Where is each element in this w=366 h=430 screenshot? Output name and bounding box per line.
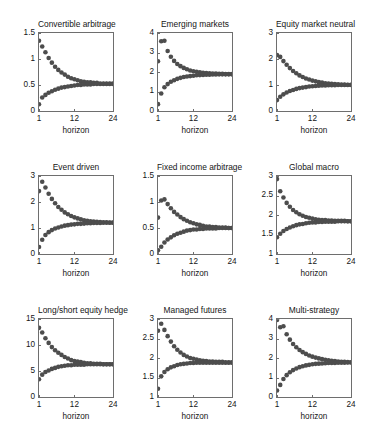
chart-panel: Event driven012311224horizon (4, 162, 124, 278)
y-axis-tick-mark (276, 235, 279, 236)
x-axis-tick-mark (351, 395, 352, 398)
data-point (165, 334, 170, 339)
data-point (281, 195, 286, 200)
scatter-series (39, 326, 113, 367)
data-point (39, 39, 41, 44)
scatter-series (39, 362, 113, 382)
x-axis-label: horizon (276, 412, 352, 421)
panel-title: Long/short equity hedge (38, 305, 114, 315)
x-axis-tick-label: 1 (27, 115, 51, 123)
data-point (158, 102, 160, 107)
y-axis-tick-mark (157, 339, 160, 340)
plot-area (38, 32, 114, 112)
x-axis-tick-label: 1 (146, 115, 170, 123)
data-point (169, 54, 174, 59)
data-point (165, 49, 170, 54)
x-axis-tick-mark (74, 395, 75, 398)
y-axis-tick-label: 3 (242, 334, 273, 342)
x-axis-label: horizon (276, 126, 352, 135)
plot-area (157, 175, 233, 255)
y-axis-tick-label: 1 (123, 198, 154, 206)
y-axis-tick-label: 3 (123, 48, 154, 56)
data-point (50, 197, 55, 202)
chart-panel: Long/short equity hedge05101511224horizo… (4, 305, 124, 421)
x-axis-tick-label: 12 (181, 401, 205, 409)
data-point (40, 179, 45, 184)
y-axis-tick-label: 0.5 (123, 224, 154, 232)
y-axis-tick-label: 1 (4, 224, 35, 232)
x-axis-tick-mark (158, 109, 159, 112)
data-point (46, 341, 51, 346)
scatter-series-layer (277, 176, 351, 254)
plot-area (276, 175, 352, 255)
data-point (169, 339, 174, 344)
data-point (158, 215, 160, 220)
y-axis-tick-label: 2 (123, 354, 154, 362)
x-axis-tick-label: 1 (265, 115, 289, 123)
y-axis-tick-mark (38, 228, 41, 229)
y-axis-tick-label: 1 (242, 373, 273, 381)
data-point (281, 377, 286, 382)
scatter-series-layer (39, 176, 113, 254)
data-point (278, 189, 283, 194)
data-point (165, 202, 170, 207)
y-axis-tick-label: 0 (242, 393, 273, 401)
scatter-series (277, 83, 351, 103)
x-axis-tick-mark (351, 252, 352, 255)
x-axis-tick-mark (351, 109, 352, 112)
y-axis-tick-mark (38, 33, 41, 34)
data-point (172, 344, 177, 349)
chart-panel: Managed futures11.522.5311224horizon (123, 305, 243, 421)
y-axis-tick-mark (38, 345, 41, 346)
y-axis-tick-label: 0.5 (4, 81, 35, 89)
scatter-series (158, 197, 232, 230)
data-point (43, 336, 48, 341)
y-axis-tick-label: 0 (4, 250, 35, 258)
data-point (40, 44, 45, 49)
scatter-series (277, 319, 351, 365)
x-axis-tick-mark (158, 252, 159, 255)
panel-title: Emerging markets (157, 19, 233, 29)
data-point (169, 206, 174, 211)
data-point (281, 324, 286, 329)
y-axis-tick-mark (157, 33, 160, 34)
y-axis-tick-label: 3 (242, 29, 273, 37)
y-axis-tick-mark (276, 339, 279, 340)
x-axis-tick-mark (232, 395, 233, 398)
x-axis-tick-mark (312, 395, 313, 398)
y-axis-tick-mark (157, 358, 160, 359)
x-axis-tick-label: 12 (300, 258, 324, 266)
x-axis-tick-mark (193, 109, 194, 112)
y-axis-tick-label: 4 (123, 29, 154, 37)
data-point (162, 39, 167, 44)
y-axis-tick-label: 1 (242, 81, 273, 89)
y-axis-tick-mark (157, 319, 160, 320)
figure-panel-grid: Convertible arbitrage00.511.511224horizo… (0, 0, 366, 430)
data-point (288, 337, 293, 342)
y-axis-tick-label: 1.5 (4, 29, 35, 37)
y-axis-tick-label: 3 (4, 172, 35, 180)
scatter-series-layer (158, 33, 232, 111)
x-axis-tick-label: 24 (220, 258, 244, 266)
data-point (40, 330, 45, 335)
x-axis-tick-label: 24 (220, 401, 244, 409)
y-axis-tick-mark (38, 202, 41, 203)
scatter-series (158, 72, 232, 106)
scatter-series (277, 53, 351, 87)
y-axis-tick-label: 0 (242, 107, 273, 115)
y-axis-tick-mark (157, 228, 160, 229)
chart-panel: Convertible arbitrage00.511.511224horizo… (4, 19, 124, 135)
x-axis-tick-mark (39, 395, 40, 398)
y-axis-tick-mark (276, 33, 279, 34)
x-axis-tick-mark (39, 109, 40, 112)
scatter-series-layer (277, 319, 351, 397)
x-axis-label: horizon (38, 126, 114, 135)
chart-panel: Multi-strategy0123411224horizon (242, 305, 362, 421)
x-axis-tick-label: 1 (27, 258, 51, 266)
panel-title: Equity market neutral (276, 19, 352, 29)
x-axis-tick-mark (74, 109, 75, 112)
data-point (39, 189, 41, 194)
scatter-series (158, 360, 232, 391)
y-axis-tick-label: 1 (123, 393, 154, 401)
x-axis-tick-label: 12 (181, 115, 205, 123)
